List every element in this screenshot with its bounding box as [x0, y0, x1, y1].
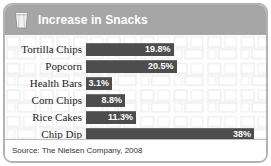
category-label-popcorn: Popcorn: [5, 61, 86, 72]
page-title: Increase in Snacks: [38, 14, 148, 26]
bar-track: 20.5%: [86, 60, 266, 73]
bar-track: 8.8%: [86, 94, 266, 107]
table-row: Corn Chips 8.8%: [5, 92, 266, 108]
bar-rows: Tortilla Chips 19.8% Popcorn 20.5% Healt…: [5, 35, 266, 143]
bar-popcorn: 20.5%: [86, 60, 177, 73]
category-label-tortilla-chips: Tortilla Chips: [5, 44, 86, 55]
bar-corn-chips: 8.8%: [86, 94, 125, 107]
category-label-corn-chips: Corn Chips: [5, 95, 86, 106]
bar-tortilla-chips: 19.8%: [86, 43, 174, 56]
source-text: Source: The Nielsen Company, 2008: [12, 147, 142, 155]
bar-value-tortilla-chips: 19.8%: [145, 45, 174, 54]
chart-header: Increase in Snacks: [5, 5, 266, 35]
plot-area: Tortilla Chips 19.8% Popcorn 20.5% Healt…: [5, 35, 266, 143]
table-row: Rice Cakes 11.3%: [5, 109, 266, 125]
chart-footer: Source: The Nielsen Company, 2008: [5, 139, 266, 161]
table-row: Popcorn 20.5%: [5, 58, 266, 74]
category-label-chip-dip: Chip Dip: [5, 129, 86, 140]
bar-value-corn-chips: 8.8%: [101, 96, 125, 105]
chart-card: Increase in Snacks Tortilla Chips: [3, 3, 268, 163]
bar-rice-cakes: 11.3%: [86, 111, 136, 124]
bar-value-health-bars: 3.1%: [88, 79, 112, 88]
popcorn-cup-icon: [14, 12, 29, 29]
table-row: Tortilla Chips 19.8%: [5, 41, 266, 57]
bar-value-chip-dip: 38%: [233, 130, 254, 139]
bar-value-rice-cakes: 11.3%: [108, 113, 136, 122]
bar-track: 3.1%: [86, 77, 266, 90]
table-row: Health Bars 3.1%: [5, 75, 266, 91]
bar-track: 19.8%: [86, 43, 266, 56]
category-label-health-bars: Health Bars: [5, 78, 86, 89]
category-label-rice-cakes: Rice Cakes: [5, 112, 86, 123]
bar-health-bars: 3.1%: [86, 77, 112, 90]
bar-value-popcorn: 20.5%: [148, 62, 177, 71]
bar-track: 11.3%: [86, 111, 266, 124]
